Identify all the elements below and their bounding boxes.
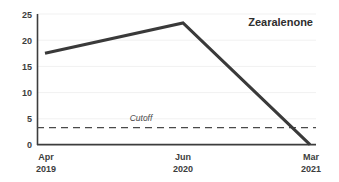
y-tick-label: 0 <box>27 140 32 150</box>
y-tick-label: 10 <box>22 88 32 98</box>
line-chart: 25 20 15 10 5 0 Cutoff Zearalenone Apr 2… <box>0 0 339 182</box>
y-tick-label: 20 <box>22 36 32 46</box>
x-tick-label-month: Jun <box>175 152 191 162</box>
y-axis-ticks: 25 20 15 10 5 0 <box>22 10 32 151</box>
x-axis-ticks: Apr 2019 Jun 2020 Mar 2021 <box>36 152 321 174</box>
plot-area-background <box>37 14 316 145</box>
x-tick-label-year: 2020 <box>173 164 193 174</box>
x-tick-label-year: 2019 <box>36 164 56 174</box>
y-tick-label: 5 <box>27 114 32 124</box>
chart-container: 25 20 15 10 5 0 Cutoff Zearalenone Apr 2… <box>0 0 339 182</box>
y-tick-label: 15 <box>22 62 32 72</box>
x-tick-label-month: Mar <box>303 152 320 162</box>
chart-title: Zearalenone <box>248 16 313 28</box>
x-tick-label-year: 2021 <box>301 164 321 174</box>
x-tick-label-month: Apr <box>38 152 54 162</box>
cutoff-label: Cutoff <box>130 113 154 123</box>
y-tick-label: 25 <box>22 10 32 20</box>
